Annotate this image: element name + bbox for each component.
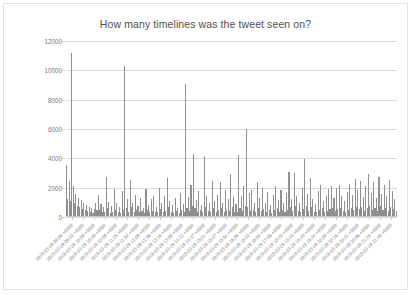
x-axis-tick-mark bbox=[215, 218, 216, 220]
x-axis-tick-mark bbox=[116, 218, 117, 220]
x-axis-tick-mark bbox=[138, 218, 139, 220]
x-axis-tick-mark bbox=[248, 218, 249, 220]
y-axis-tick-label: 10000 bbox=[30, 67, 62, 74]
bar bbox=[246, 129, 247, 217]
chart-container: How many timelines was the tweet seen on… bbox=[3, 3, 408, 290]
y-axis-tick-mark bbox=[62, 70, 65, 71]
y-axis-tick-mark bbox=[62, 129, 65, 130]
x-axis-tick-mark bbox=[347, 218, 348, 220]
x-axis-tick-mark bbox=[171, 218, 172, 220]
plot-area bbox=[66, 41, 397, 217]
y-axis-tick-mark bbox=[62, 100, 65, 101]
x-axis-tick-mark bbox=[149, 218, 150, 220]
y-axis-tick-label: 8000 bbox=[30, 96, 62, 103]
x-axis-tick-mark bbox=[193, 218, 194, 220]
y-axis-tick-mark bbox=[62, 188, 65, 189]
x-axis-tick-mark bbox=[380, 218, 381, 220]
x-axis-tick-mark bbox=[127, 218, 128, 220]
x-axis-tick-mark bbox=[72, 218, 73, 220]
x-axis-tick-mark bbox=[94, 218, 95, 220]
x-axis-tick-mark bbox=[105, 218, 106, 220]
y-axis-tick-label: 4000 bbox=[30, 155, 62, 162]
x-axis-labels: 2018-03-29 09:06 +00002018-03-29 09:32 +… bbox=[4, 218, 413, 295]
bar bbox=[124, 66, 125, 216]
y-axis-labels: 020004000600080001000012000 bbox=[26, 41, 62, 217]
bar-series bbox=[66, 41, 397, 216]
y-axis-tick-mark bbox=[62, 158, 65, 159]
bar bbox=[193, 154, 194, 216]
x-axis-tick-mark bbox=[83, 218, 84, 220]
x-axis-tick-mark bbox=[325, 218, 326, 220]
y-axis-tick-label: 6000 bbox=[30, 126, 62, 133]
x-axis-line bbox=[66, 216, 397, 217]
x-axis-tick-mark bbox=[292, 218, 293, 220]
x-axis-tick-mark bbox=[391, 218, 392, 220]
y-axis-tick-label: 12000 bbox=[30, 38, 62, 45]
x-axis-tick-mark bbox=[226, 218, 227, 220]
x-axis-tick-mark bbox=[358, 218, 359, 220]
y-axis-tick-label: 2000 bbox=[30, 184, 62, 191]
x-axis-tick-mark bbox=[270, 218, 271, 220]
x-axis-tick-mark bbox=[314, 218, 315, 220]
x-axis-tick-mark bbox=[182, 218, 183, 220]
bar bbox=[185, 84, 186, 216]
x-axis-tick-mark bbox=[204, 218, 205, 220]
x-axis-tick-mark bbox=[281, 218, 282, 220]
y-axis-tick-mark bbox=[62, 41, 65, 42]
x-axis-tick-mark bbox=[237, 218, 238, 220]
x-axis-tick-mark bbox=[369, 218, 370, 220]
x-axis-tick-mark bbox=[336, 218, 337, 220]
x-axis-tick-mark bbox=[259, 218, 260, 220]
x-axis-tick-mark bbox=[160, 218, 161, 220]
chart-title: How many timelines was the tweet seen on… bbox=[4, 18, 407, 30]
x-axis-tick-mark bbox=[303, 218, 304, 220]
